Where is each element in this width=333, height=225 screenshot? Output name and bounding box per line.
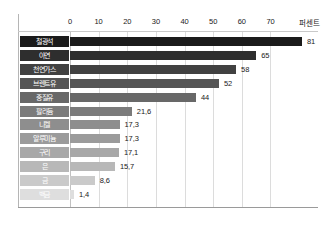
- bar-value-label: 21,6: [137, 107, 151, 116]
- bar-row: 아연65: [19, 49, 318, 62]
- bar-row: 중질유44: [19, 91, 318, 104]
- category-label-box: 구리: [19, 146, 70, 159]
- bar-value-label: 65: [261, 51, 269, 60]
- bar-row: 알루미늄17,3: [19, 132, 318, 145]
- bar-row: 천연가스58: [19, 63, 318, 76]
- bar-row: 구리17,1: [19, 146, 318, 159]
- bar: [70, 162, 115, 171]
- category-label-box: 백금: [19, 188, 70, 201]
- category-label: 알루미늄: [33, 135, 56, 142]
- category-label: 백금: [39, 191, 51, 198]
- x-tick-label-10: 10: [95, 17, 103, 26]
- bar-value-label: 44: [201, 93, 209, 102]
- x-tick-label-50: 50: [209, 17, 217, 26]
- bar-value-label: 81: [307, 37, 315, 46]
- bar: [70, 65, 236, 74]
- category-label: 아연: [39, 52, 51, 59]
- category-label: 팔라듐: [36, 108, 53, 115]
- bar-value-label: 17,3: [125, 120, 139, 129]
- bar-row: 철광석81: [19, 35, 318, 48]
- category-label: 니켈: [39, 121, 51, 128]
- x-tick-label-0: 0: [68, 17, 72, 26]
- bar-value-label: 15,7: [120, 162, 134, 171]
- bar: [70, 176, 95, 185]
- bar-value-label: 1,4: [79, 190, 89, 199]
- category-label-box: 니켈: [19, 118, 70, 131]
- category-label: 철광석: [36, 38, 53, 45]
- axis-line-top: [18, 31, 318, 32]
- bar-value-label: 17,3: [125, 134, 139, 143]
- bar: [70, 93, 196, 102]
- x-tick-label-60: 60: [238, 17, 246, 26]
- category-label-box: 은: [19, 160, 70, 173]
- category-label: 구리: [39, 149, 51, 156]
- category-label-box: 아연: [19, 49, 70, 62]
- bar-row: 백금1,4: [19, 188, 318, 201]
- category-label-box: 금: [19, 174, 70, 187]
- x-tick-label-20: 20: [123, 17, 131, 26]
- bar-row: 은15,7: [19, 160, 318, 173]
- category-label-box: 철광석: [19, 35, 70, 48]
- x-axis-unit-label: 퍼센트: [299, 17, 319, 28]
- category-label: 금: [42, 177, 48, 184]
- bar-row: 브렌트유52: [19, 77, 318, 90]
- bar-value-label: 17,1: [124, 148, 138, 157]
- bar: [70, 190, 74, 199]
- bar: [70, 107, 132, 116]
- x-tick-label-70: 70: [266, 17, 274, 26]
- bar: [70, 120, 120, 129]
- bar-value-label: 58: [241, 65, 249, 74]
- bar-row: 니켈17,3: [19, 118, 318, 131]
- category-label: 브렌트유: [33, 80, 56, 87]
- category-label: 은: [42, 163, 48, 170]
- x-tick-label-40: 40: [180, 17, 188, 26]
- bar: [70, 148, 119, 157]
- bar-value-label: 8,6: [100, 176, 110, 185]
- bar-chart: 010203040506070 철광석81아연65천연가스58브렌트유52중질유…: [0, 0, 333, 225]
- bar-row: 팔라듐21,6: [19, 105, 318, 118]
- bar: [70, 134, 120, 143]
- bar-value-label: 52: [224, 79, 232, 88]
- axis-line-bottom: [18, 207, 318, 208]
- category-label-box: 중질유: [19, 91, 70, 104]
- category-label-box: 팔라듐: [19, 105, 70, 118]
- category-label-box: 브렌트유: [19, 77, 70, 90]
- bar: [70, 79, 219, 88]
- bar: [70, 51, 256, 60]
- category-label-box: 알루미늄: [19, 132, 70, 145]
- category-label-box: 천연가스: [19, 63, 70, 76]
- x-tick-label-30: 30: [152, 17, 160, 26]
- category-label: 천연가스: [33, 66, 56, 73]
- bar-row: 금8,6: [19, 174, 318, 187]
- category-label: 중질유: [36, 94, 53, 101]
- bar: [70, 37, 302, 46]
